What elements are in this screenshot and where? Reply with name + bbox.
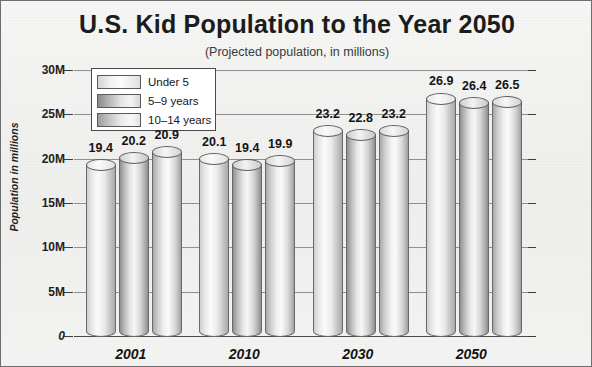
bar-body (492, 102, 522, 331)
legend-item-label: 10–14 years (148, 114, 211, 126)
chart-legend: Under 5 5–9 years 10–14 years (91, 68, 216, 131)
x-axis-category-label: 2030 (301, 346, 415, 362)
bar (426, 93, 456, 338)
bar-top-ellipse (199, 153, 229, 165)
bar-top-ellipse (152, 146, 182, 158)
bar (199, 153, 229, 337)
y-axis-tick-label: 30M (21, 63, 65, 77)
y-axis-tick-label: 15M (21, 196, 65, 210)
bar (232, 159, 262, 337)
bar-body (119, 158, 149, 331)
y-axis-tick (528, 336, 536, 337)
bar-top-ellipse (119, 152, 149, 164)
chart-subtitle: (Projected population, in millions) (1, 45, 592, 59)
legend-item-label: Under 5 (148, 76, 189, 88)
legend-item-label: 5–9 years (148, 95, 199, 107)
y-axis-tick (64, 159, 73, 160)
y-axis-tick-label: 5M (21, 285, 65, 299)
chart-frame: U.S. Kid Population to the Year 2050 (Pr… (0, 0, 592, 367)
bar-top-ellipse (459, 97, 489, 109)
bar (152, 146, 182, 337)
bar (492, 96, 522, 337)
y-axis-tick (528, 70, 536, 71)
bar-value-label: 23.2 (373, 107, 415, 121)
y-axis-tick (64, 114, 73, 115)
bar (86, 159, 116, 337)
bar-top-ellipse (86, 159, 116, 171)
bar-body (426, 99, 456, 332)
legend-swatch-icon (97, 113, 141, 127)
y-axis-tick (528, 114, 536, 115)
bar-top-ellipse (426, 93, 456, 105)
bar (265, 155, 295, 337)
y-axis-title: Population in millions (8, 92, 20, 262)
legend-swatch-icon (97, 75, 141, 89)
bar (119, 152, 149, 337)
y-axis-tick-label: 10M (21, 240, 65, 254)
x-axis-category-label: 2050 (415, 346, 529, 362)
legend-item[interactable]: 10–14 years (97, 111, 210, 129)
legend-item[interactable]: 5–9 years (97, 92, 210, 110)
bar-body (313, 131, 343, 331)
bar-body (152, 152, 182, 331)
bar-value-label: 19.9 (259, 137, 301, 151)
y-axis-tick-label: 0 (21, 329, 65, 343)
bar-body (459, 103, 489, 331)
y-axis-tick (64, 292, 73, 293)
y-axis-tick-label: 20M (21, 152, 65, 166)
bar (313, 125, 343, 337)
x-axis-category-label: 2001 (74, 346, 188, 362)
bar-value-label: 20.9 (146, 128, 188, 142)
y-axis-tick (528, 159, 536, 160)
chart-title: U.S. Kid Population to the Year 2050 (1, 10, 592, 39)
bar (346, 129, 376, 337)
bar (379, 125, 409, 337)
bar-body (86, 165, 116, 331)
x-axis-category-label: 2010 (188, 346, 302, 362)
y-axis-tick (64, 70, 73, 71)
legend-swatch-icon (97, 94, 141, 108)
bar-top-ellipse (346, 129, 376, 141)
bar-body (232, 165, 262, 331)
legend-item[interactable]: Under 5 (97, 73, 210, 91)
y-axis-tick (528, 292, 536, 293)
bar-body (199, 159, 229, 331)
bar-value-label: 26.5 (486, 78, 528, 92)
y-axis-tick (64, 247, 73, 248)
bar-top-ellipse (265, 155, 295, 167)
bar-body (265, 161, 295, 331)
y-axis-tick (64, 203, 73, 204)
bar-body (379, 131, 409, 331)
y-axis-tick (528, 247, 536, 248)
bar (459, 97, 489, 337)
y-axis-tick-label: 25M (21, 107, 65, 121)
bar-body (346, 135, 376, 331)
y-axis-tick-labels: 05M10M15M20M25M30M (19, 71, 65, 337)
y-axis-tick (528, 203, 536, 204)
y-axis-tick (64, 336, 73, 337)
